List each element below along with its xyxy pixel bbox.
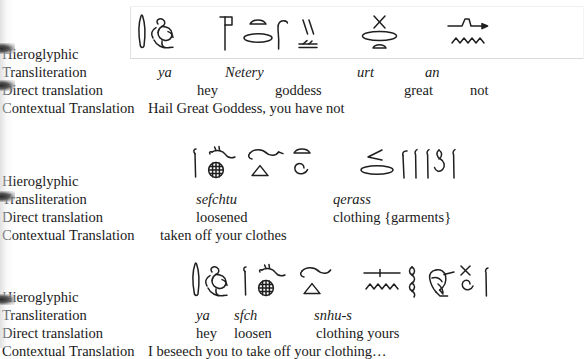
row-label-hieroglyphic: Hieroglyphic bbox=[2, 47, 79, 62]
direct-translation-cell: great bbox=[404, 83, 433, 98]
direct-translation-cell: hey bbox=[197, 83, 218, 98]
row-label-transliteration: Transliteration bbox=[2, 308, 87, 323]
direct-translation-cell: loosened bbox=[196, 210, 248, 225]
direct-translation-cell: hey bbox=[196, 326, 217, 341]
glyph-group-reed-seated-figure bbox=[186, 258, 240, 304]
contextual-translation-cell: I beseech you to take off your clothing… bbox=[148, 344, 387, 359]
row-label-contextual-translation: Contextual Translation bbox=[2, 344, 135, 359]
transliteration-cell: sfch bbox=[234, 308, 257, 323]
hieroglyph-row-3 bbox=[0, 258, 584, 304]
glyph-group-urt-swallow-loaf bbox=[355, 10, 407, 56]
direct-translation-cell: not bbox=[470, 83, 489, 98]
row-label-transliteration: Transliteration bbox=[2, 65, 87, 80]
transliteration-cell: snhu-s bbox=[314, 308, 352, 323]
contextual-translation-cell: Hail Great Goddess, you have not bbox=[148, 101, 345, 116]
row-label-contextual-translation: Contextual Translation bbox=[2, 101, 135, 116]
transliteration-cell: ya bbox=[158, 65, 172, 80]
glyph-group-sefchtu bbox=[190, 140, 320, 186]
transliteration-cell: urt bbox=[357, 65, 374, 80]
transliteration-cell: sefchtu bbox=[196, 192, 237, 207]
transliteration-cell: Netery bbox=[225, 65, 264, 80]
glyph-group-sfch bbox=[240, 258, 350, 304]
direct-translation-cell: clothing {garments} bbox=[333, 210, 451, 225]
glyph-group-netjer-flag-loaf-cobra-strokes bbox=[215, 10, 320, 56]
row-label-transliteration: Transliteration bbox=[2, 192, 87, 207]
row-label-direct-translation: Direct translation bbox=[2, 83, 103, 98]
row-label-hieroglyphic: Hieroglyphic bbox=[2, 174, 79, 189]
glyph-group-qerass bbox=[355, 140, 465, 186]
glyph-group-reed-seated-figure bbox=[132, 10, 186, 56]
glyph-group-an-water-ripple bbox=[442, 10, 496, 56]
direct-translation-cell: loosen bbox=[234, 326, 272, 341]
hieroglyph-row-2 bbox=[0, 140, 584, 186]
transliteration-cell: an bbox=[425, 65, 440, 80]
row-label-contextual-translation: Contextual Translation bbox=[2, 228, 135, 243]
glyph-group-snhu-s bbox=[360, 258, 500, 304]
direct-translation-cell: clothing yours bbox=[316, 326, 399, 341]
row-label-direct-translation: Direct translation bbox=[2, 326, 103, 341]
row-label-direct-translation: Direct translation bbox=[2, 210, 103, 225]
row-label-hieroglyphic: Hieroglyphic bbox=[2, 290, 79, 305]
transliteration-cell: ya bbox=[196, 308, 210, 323]
transliteration-cell: qerass bbox=[333, 192, 371, 207]
hieroglyph-row-1 bbox=[0, 10, 584, 56]
contextual-translation-cell: taken off your clothes bbox=[160, 228, 287, 243]
direct-translation-cell: goddess bbox=[275, 83, 322, 98]
